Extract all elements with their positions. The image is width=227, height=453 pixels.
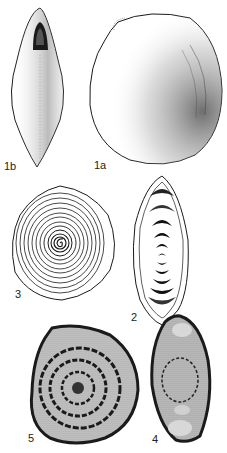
figure-5	[31, 326, 138, 443]
figure-label-4: 4	[152, 433, 158, 445]
figure-label-3: 3	[15, 288, 21, 300]
figure-4	[152, 316, 210, 441]
figure-1b	[11, 8, 63, 167]
figure-label-5: 5	[28, 432, 34, 444]
figure-2	[133, 176, 188, 325]
figure-label-1a: 1a	[94, 159, 106, 171]
figure-3	[12, 186, 114, 300]
figure-label-1b: 1b	[4, 160, 16, 172]
foraminifera-plate	[0, 0, 227, 453]
figure-label-2: 2	[131, 311, 137, 323]
figure-1a	[90, 14, 222, 164]
